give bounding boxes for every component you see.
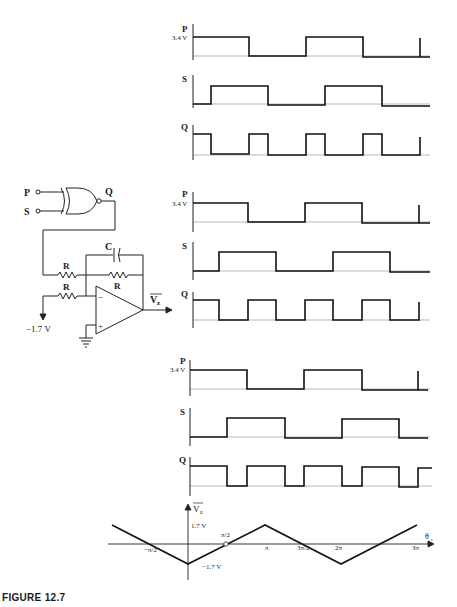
timing-set-3: P S Q 3.4 V	[170, 356, 432, 496]
output-graph: V z 1.7 V −1.7 V −π/2 π/2 π 3π/2 2π 3π θ…	[108, 503, 434, 580]
timing-set-2: P S Q 3.4 V	[172, 189, 430, 328]
bias-voltage-label: −1.7 V	[26, 324, 51, 334]
set3-s-label: S	[180, 407, 185, 417]
ground-icon	[79, 338, 93, 347]
xnor-gate	[36, 188, 115, 275]
resistor-feedback	[109, 272, 128, 278]
graph-top-level: 1.7 V	[191, 522, 206, 530]
capacitor-label: C	[105, 241, 112, 252]
tick-3pi-half: 3π/2	[297, 544, 310, 552]
set1-p-label: P	[182, 24, 188, 34]
waveform-s	[190, 418, 428, 438]
graph-y-label: V	[193, 504, 200, 514]
timing-set-1: P S Q 3.4 V	[172, 24, 430, 160]
waveform-q	[193, 134, 420, 155]
output-subscript: z	[157, 299, 160, 307]
waveform-s	[193, 252, 430, 272]
tick-2pi: 2π	[335, 544, 343, 552]
waveform-q	[190, 466, 432, 487]
opamp-plus: +	[98, 321, 103, 331]
set2-p-level: 3.4 V	[172, 200, 187, 208]
set3-p-label: P	[180, 356, 186, 366]
set1-p-level: 3.4 V	[172, 34, 187, 42]
resistor-r1	[58, 272, 77, 278]
set2-s-label: S	[182, 241, 187, 251]
resistor-bias	[58, 293, 77, 299]
waveform-p	[193, 203, 430, 223]
graph-x-subscript: e	[431, 537, 434, 542]
set3-q-label: Q	[179, 455, 186, 465]
waveform-s	[193, 86, 430, 106]
resistor-label-1: R	[63, 261, 70, 271]
opamp-minus: −	[98, 292, 103, 302]
set2-q-label: Q	[181, 289, 188, 299]
graph-bottom-level: −1.7 V	[202, 563, 221, 571]
tick-3pi: 3π	[412, 544, 420, 552]
resistor-label-2: R	[114, 281, 121, 291]
waveform-p	[190, 370, 428, 390]
set1-s-label: S	[182, 74, 187, 84]
figure-canvas: P S Q C R R R V z − + −1.7 V P	[0, 0, 457, 607]
set3-p-level: 3.4 V	[170, 366, 185, 374]
waveform-p	[193, 37, 430, 57]
gate-output-label: Q	[105, 186, 113, 197]
input-s-label: S	[24, 206, 30, 217]
tick-pi-half: π/2	[221, 531, 230, 539]
graph-y-subscript: z	[200, 509, 203, 515]
set1-q-label: Q	[181, 122, 188, 132]
set2-p-label: P	[182, 189, 188, 199]
figure-caption: FIGURE 12.7	[2, 592, 65, 603]
output-arrow-icon	[166, 307, 172, 313]
graph-x-label: θ	[425, 532, 429, 541]
resistor-label-3: R	[63, 282, 70, 292]
tick-neg-pi-half: −π/2	[144, 546, 157, 554]
input-p-label: P	[24, 187, 30, 198]
waveform-q	[193, 300, 419, 320]
tick-pi: π	[265, 544, 269, 552]
